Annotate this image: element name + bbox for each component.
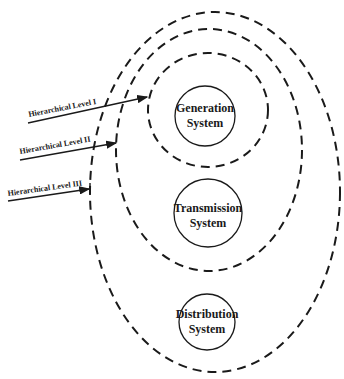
distribution-label-line1: Distribution	[176, 307, 239, 321]
transmission-label-line2: System	[190, 216, 227, 230]
distribution-label-line2: System	[189, 322, 226, 336]
hierarchical-levels-diagram: Generation System Transmission System Di…	[0, 0, 344, 379]
transmission-label-line1: Transmission	[174, 201, 243, 215]
distribution-system-node: Distribution System	[176, 294, 239, 350]
transmission-system-node: Transmission System	[174, 179, 243, 247]
level-2-label: Hierarchical Level II	[19, 135, 91, 156]
generation-label-line1: Generation	[176, 101, 234, 115]
generation-system-node: Generation System	[175, 86, 235, 146]
generation-label-line2: System	[187, 116, 224, 130]
